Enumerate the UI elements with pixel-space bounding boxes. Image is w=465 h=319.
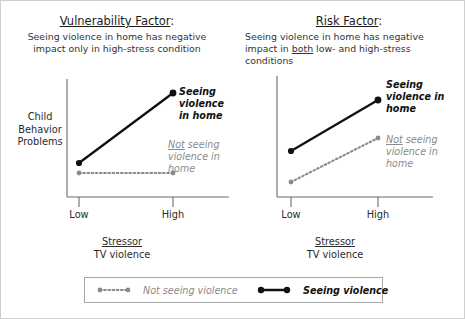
- annotation-not-seeing-violence-left-line-2: violence in home: [168, 151, 240, 175]
- annotation-seeing-violence-right-line-1: Seeing: [386, 79, 452, 91]
- annotation-not-seeing-violence-left-line-1: Not seeing: [168, 139, 240, 151]
- series-seeing-violence-right: [291, 100, 378, 151]
- legend-dotted-marker-end: [126, 288, 131, 293]
- annotation-not-seeing-violence-left-rest-1: seeing: [185, 139, 220, 150]
- panel-risk-factor: Risk Factor: Seeing violence in home has…: [233, 1, 465, 271]
- legend-item-seeing-violence: Seeing violence: [257, 278, 388, 302]
- x-axis-title-right-underlined: Stressor: [315, 236, 355, 247]
- legend-label-seeing-violence: Seeing violence: [303, 285, 388, 296]
- legend-swatch-solid: [257, 284, 291, 296]
- data-point-seeing-low-left: [76, 160, 82, 166]
- data-point-seeing-high-right: [375, 97, 382, 104]
- annotation-not-seeing-violence-right-line-1: Not seeing: [386, 134, 456, 146]
- x-axis-title-right-sub: TV violence: [279, 249, 391, 262]
- annotation-not-underline-left: Not: [168, 139, 185, 150]
- annotation-not-seeing-violence-right-line-3: home: [386, 158, 456, 170]
- annotation-seeing-violence-left: Seeing violence in home: [179, 86, 241, 121]
- annotation-not-seeing-violence-left: Not seeing violence in home: [168, 139, 240, 174]
- series-seeing-violence-left: [79, 93, 173, 163]
- legend-solid-marker-end: [284, 287, 290, 293]
- plot-area-right: [233, 1, 465, 231]
- panel-vulnerability-factor: Vulnerability Factor: Seeing violence in…: [1, 1, 233, 271]
- annotation-not-seeing-violence-right-line-2: violence in: [386, 146, 456, 158]
- annotation-seeing-violence-right-line-2: violence in: [386, 91, 452, 103]
- annotation-seeing-violence-right: Seeing violence in home: [386, 79, 452, 114]
- data-point-seeing-high-left: [170, 90, 177, 97]
- annotation-seeing-violence-right-line-3: home: [386, 103, 452, 115]
- data-point-not-seeing-low-right: [289, 180, 294, 185]
- x-tick-label-high-left: High: [151, 209, 195, 220]
- x-tick-label-low-right: Low: [269, 209, 313, 220]
- data-point-not-seeing-high-right: [376, 136, 381, 141]
- legend-item-not-seeing-violence: Not seeing violence: [97, 278, 238, 302]
- x-axis-title-left: Stressor TV violence: [67, 236, 177, 261]
- x-axis-title-left-main: Stressor: [67, 236, 177, 249]
- x-axis-title-right: Stressor TV violence: [279, 236, 391, 261]
- legend-solid-marker-start: [258, 287, 264, 293]
- legend-dotted-marker-start: [98, 288, 103, 293]
- annotation-not-seeing-violence-right: Not seeing violence in home: [386, 134, 456, 169]
- annotation-not-seeing-violence-right-rest-1: seeing: [403, 134, 438, 145]
- x-axis-title-right-main: Stressor: [279, 236, 391, 249]
- x-axis-title-left-sub: TV violence: [67, 249, 177, 262]
- annotation-seeing-violence-left-line-2: in home: [179, 110, 241, 122]
- x-tick-label-high-right: High: [356, 209, 400, 220]
- legend-label-not-seeing-violence: Not seeing violence: [143, 285, 238, 296]
- diagram-figure: Vulnerability Factor: Seeing violence in…: [0, 0, 465, 319]
- x-tick-label-low-left: Low: [57, 209, 101, 220]
- x-axis-title-left-underlined: Stressor: [102, 236, 142, 247]
- legend-swatch-dotted: [97, 284, 131, 296]
- annotation-not-underline-right: Not: [386, 134, 403, 145]
- data-point-seeing-low-right: [288, 148, 294, 154]
- legend: Not seeing violence Seeing violence: [84, 277, 383, 303]
- annotation-seeing-violence-left-line-1: Seeing violence: [179, 86, 241, 110]
- data-point-not-seeing-low-left: [77, 171, 82, 176]
